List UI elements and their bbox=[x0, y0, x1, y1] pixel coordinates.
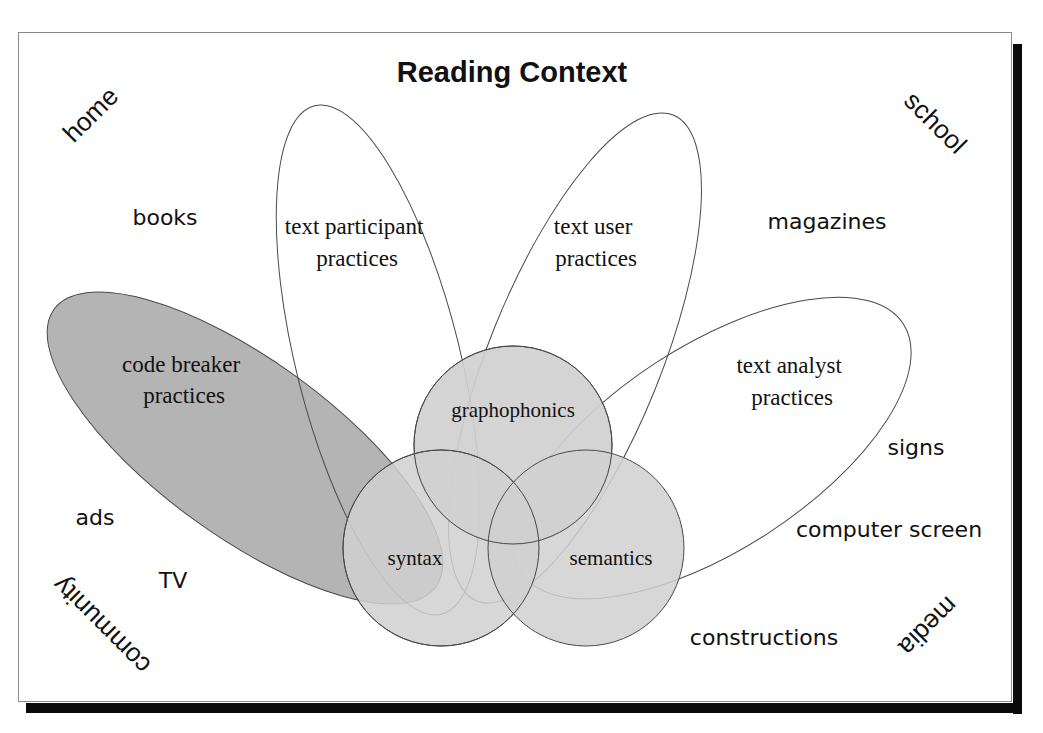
text-user-line1: text user bbox=[554, 214, 633, 239]
text-user-line2: practices bbox=[555, 246, 637, 271]
corner-label-media: media bbox=[892, 591, 964, 663]
corner-label-community: community bbox=[46, 570, 156, 680]
text-analyst-line1: text analyst bbox=[736, 353, 842, 378]
context-tv: TV bbox=[158, 568, 188, 593]
context-computer-screen: computer screen bbox=[796, 517, 982, 542]
reading-context-diagram: Reading Context home school community me… bbox=[0, 0, 1043, 733]
text-participant-line1: text participant bbox=[285, 214, 424, 239]
syntax-label: syntax bbox=[388, 546, 443, 570]
context-constructions: constructions bbox=[690, 625, 838, 650]
context-signs: signs bbox=[888, 435, 945, 460]
text-participant-label: text participant practices bbox=[285, 214, 429, 271]
semantics-label: semantics bbox=[570, 546, 653, 570]
context-books: books bbox=[132, 205, 197, 230]
code-breaker-line2: practices bbox=[143, 383, 225, 408]
text-user-label: text user practices bbox=[554, 214, 638, 271]
code-breaker-line1: code breaker bbox=[122, 352, 240, 377]
context-magazines: magazines bbox=[768, 209, 887, 234]
graphophonics-label: graphophonics bbox=[451, 398, 575, 422]
text-participant-line2: practices bbox=[316, 246, 398, 271]
text-analyst-line2: practices bbox=[751, 385, 833, 410]
corner-label-home: home bbox=[57, 81, 124, 148]
diagram-title: Reading Context bbox=[397, 56, 628, 88]
diagram-stage: Reading Context home school community me… bbox=[0, 0, 1043, 733]
context-ads: ads bbox=[76, 505, 115, 530]
corner-label-school: school bbox=[898, 85, 972, 159]
text-analyst-label: text analyst practices bbox=[736, 353, 847, 410]
